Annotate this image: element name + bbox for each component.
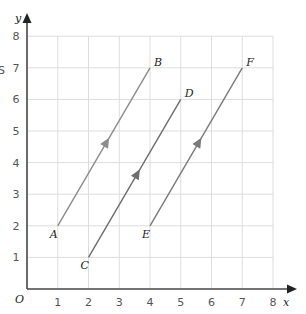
vector-ab <box>58 68 150 226</box>
x-axis-label: x <box>283 296 290 309</box>
x-tick-label: 8 <box>270 296 277 309</box>
y-tick-label: 1 <box>13 251 20 264</box>
vector-diagram: x y O S 1234567812345678 ABCDEF <box>0 0 306 314</box>
vector-arrow-icon <box>100 138 109 149</box>
x-tick-label: 2 <box>85 296 92 309</box>
point-labels: ABCDEF <box>49 56 255 273</box>
origin-label: O <box>15 293 24 306</box>
grid <box>27 36 273 289</box>
point-label-f: F <box>245 56 254 69</box>
vector-arrow-icon <box>131 169 140 180</box>
y-tick-label: 5 <box>13 125 20 138</box>
point-label-e: E <box>141 228 150 241</box>
y-tick-label: 8 <box>13 30 20 43</box>
y-axis-label: y <box>14 12 22 25</box>
y-tick-label: 4 <box>13 157 20 170</box>
x-tick-label: 5 <box>177 296 184 309</box>
point-label-b: B <box>153 56 162 69</box>
vector-cd <box>89 99 181 257</box>
point-label-c: C <box>81 259 90 272</box>
y-tick-label: 3 <box>13 188 20 201</box>
x-tick-label: 4 <box>147 296 154 309</box>
y-tick-label: 2 <box>13 220 20 233</box>
x-tick-label: 1 <box>54 296 61 309</box>
tick-labels: 1234567812345678 <box>13 30 277 309</box>
vector-arrow-icon <box>192 138 201 149</box>
point-label-d: D <box>184 87 194 100</box>
vector-ef <box>150 68 242 226</box>
margin-artifact: S <box>0 64 5 77</box>
x-tick-label: 3 <box>116 296 123 309</box>
x-axis-arrow-icon <box>287 285 297 294</box>
y-tick-label: 7 <box>13 62 20 75</box>
x-tick-label: 6 <box>208 296 215 309</box>
y-tick-label: 6 <box>13 93 20 106</box>
x-tick-label: 7 <box>239 296 246 309</box>
y-axis-arrow-icon <box>23 13 32 23</box>
point-label-a: A <box>49 228 58 241</box>
